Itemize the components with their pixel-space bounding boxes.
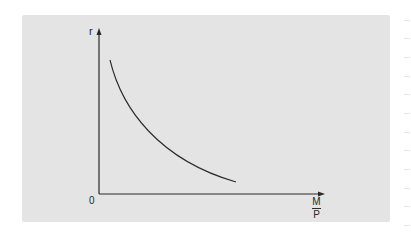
demand-curve	[110, 60, 236, 182]
origin-label: 0	[89, 196, 95, 206]
y-axis-label: r	[89, 26, 93, 37]
money-demand-diagram	[0, 0, 411, 234]
page-edge-marks	[402, 0, 411, 234]
x-axis-label: M P	[312, 197, 321, 220]
x-axis-label-numerator: M	[312, 197, 320, 207]
x-axis-label-denominator: P	[313, 210, 320, 220]
y-axis-arrow-icon	[97, 28, 102, 35]
